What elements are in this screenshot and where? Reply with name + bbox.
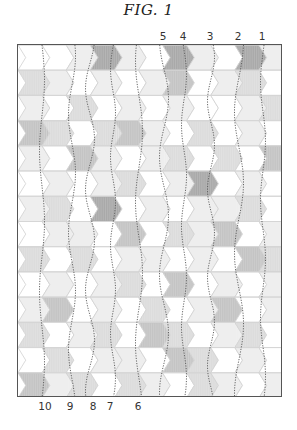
reference-numeral-4: 4: [180, 30, 187, 42]
figure-frame: [17, 44, 282, 397]
figure-title: FIG. 1: [0, 1, 297, 19]
reference-numeral-3: 3: [207, 30, 214, 42]
reference-numeral-5: 5: [160, 30, 167, 42]
reference-numeral-2: 2: [235, 30, 242, 42]
reference-numeral-8: 8: [90, 400, 97, 412]
reference-numeral-10: 10: [38, 400, 51, 412]
reference-numeral-1: 1: [259, 30, 266, 42]
reference-numeral-9: 9: [67, 400, 74, 412]
reference-numeral-6: 6: [135, 400, 142, 412]
reference-numeral-7: 7: [107, 400, 114, 412]
chevron-tile-pattern: [18, 45, 282, 397]
